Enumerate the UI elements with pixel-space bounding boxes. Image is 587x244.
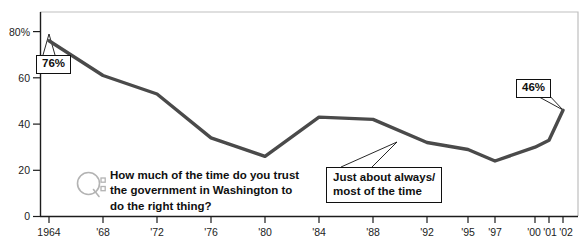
survey-question-text: How much of the time do you trust the go…	[110, 168, 299, 214]
callout-series-label: Just about always/ most of the time	[326, 167, 442, 203]
callout-first-value: 76%	[36, 55, 71, 74]
survey-question-block: How much of the time do you trust the go…	[75, 166, 299, 214]
callout-first-value-text: 76%	[42, 57, 65, 69]
question-q-icon	[75, 167, 109, 201]
series-line-just-about-always-most-of-the-time	[49, 41, 563, 161]
callout-last-value: 46%	[516, 79, 551, 98]
trust-in-government-line-chart: 0 20 40 60 80% 1964 '68 '72 '76 '80 '84 …	[0, 0, 587, 244]
callout-last-value-text: 46%	[522, 81, 545, 93]
callout-series-label-line2: most of the time	[333, 185, 435, 199]
callout-series-label-line1: Just about always/	[333, 171, 435, 185]
